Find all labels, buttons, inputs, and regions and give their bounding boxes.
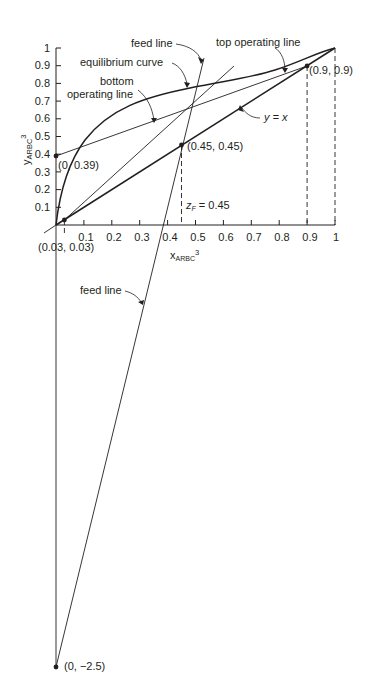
label-feed-line-bottom: feed line: [80, 284, 122, 296]
x-tick: 0.2: [106, 231, 121, 243]
label-feed-line-top: feed line: [131, 37, 173, 49]
y-tick: 0.6: [35, 112, 50, 124]
label-point-09-09: (0.9, 0.9): [309, 64, 353, 76]
y-tick: 0.3: [35, 166, 50, 178]
zf-label: zF = 0.45: [185, 199, 230, 212]
x-tick: 0.5: [190, 231, 205, 243]
y-axis-label: yARBC3: [19, 134, 34, 165]
mccabe-thiele-diagram: 0.1 0.2 0.3 0.4 0.5 0.6 0.7 0.8 0.9 1 0.…: [0, 0, 373, 689]
y-tick: 0.8: [35, 77, 50, 89]
x-tick: 0.4: [162, 231, 177, 243]
label-top-operating-line: top operating line: [216, 36, 300, 48]
y-tick: 0.7: [35, 95, 50, 107]
point-0-neg25: [54, 665, 59, 670]
point-045-045: [179, 143, 184, 148]
x-tick: 0.7: [246, 231, 261, 243]
x-tick-labels: 0.1 0.2 0.3 0.4 0.5 0.6 0.7 0.8 0.9 1: [78, 231, 339, 243]
y-tick: 0.4: [35, 148, 50, 160]
y-tick: 0.5: [35, 130, 50, 142]
point-0-039: [54, 154, 59, 159]
x-axis-label: xARBC3: [170, 248, 199, 262]
label-point-0-neg25: (0, −2.5): [64, 660, 105, 672]
x-tick: 0.3: [134, 231, 149, 243]
y-tick: 1: [44, 42, 50, 54]
y-tick: 0.9: [35, 59, 50, 71]
y-tick-labels: 0.1 0.2 0.3 0.4 0.5 0.6 0.7 0.8 0.9 1: [35, 42, 50, 213]
label-y-eq-x: y = x: [263, 111, 288, 123]
y-equals-x-extension: [44, 225, 56, 233]
label-point-003-003: (0.03, 0.03): [38, 241, 94, 253]
point-003-003: [62, 218, 67, 223]
label-equilibrium-curve: equilibrium curve: [80, 56, 163, 68]
label-point-0-039: (0, 0.39): [58, 159, 99, 171]
x-tick: 0.6: [218, 231, 233, 243]
label-point-045-045: (0.45, 0.45): [187, 140, 243, 152]
label-bottom-2: operating line: [67, 88, 133, 100]
y-tick: 0.2: [35, 183, 50, 195]
label-bottom-1: bottom: [100, 75, 134, 87]
x-tick: 1: [333, 231, 339, 243]
x-tick: 0.9: [302, 231, 317, 243]
y-tick: 0.1: [35, 201, 50, 213]
x-tick: 0.8: [274, 231, 289, 243]
